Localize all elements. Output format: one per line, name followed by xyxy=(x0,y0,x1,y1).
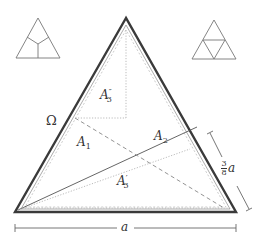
diagram-svg xyxy=(0,0,265,245)
solid-partition-line xyxy=(18,127,197,210)
label-a2: A2 xyxy=(154,130,168,145)
inset-three-region-triangle xyxy=(16,18,60,58)
fraction-three-eighths: 3 8 xyxy=(221,160,227,177)
dashed-partition-line xyxy=(75,118,224,208)
label-base-a: a xyxy=(121,221,128,233)
inset-four-subtriangle-triangle xyxy=(192,20,236,59)
region-a3-double-prime-boundary xyxy=(78,30,126,118)
diagram-canvas: Ω A″3 A1 A2 A′3 3 8 a a xyxy=(0,0,265,245)
dotted-partition-line xyxy=(18,149,190,210)
label-three-eighths-a: 3 8 a xyxy=(221,160,235,177)
label-a3-prime: A′3 xyxy=(117,174,129,190)
label-a1: A1 xyxy=(77,136,91,151)
label-omega: Ω xyxy=(46,114,57,127)
label-a3-double-prime: A″3 xyxy=(100,88,112,104)
